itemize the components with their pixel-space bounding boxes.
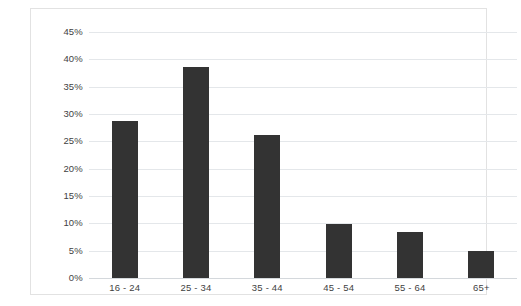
gridline xyxy=(89,32,517,33)
gridline xyxy=(89,87,517,88)
bar xyxy=(183,67,209,278)
gridline xyxy=(89,169,517,170)
x-axis-tick-label: 45 - 54 xyxy=(299,281,379,295)
bar xyxy=(326,224,352,278)
y-axis-tick-label: 45% xyxy=(39,27,83,37)
y-axis-tick-label: 25% xyxy=(39,137,83,147)
gridline xyxy=(89,278,517,279)
y-axis-tick-label: 5% xyxy=(39,246,83,256)
x-axis-tick-label: 16 - 24 xyxy=(85,281,165,295)
y-axis-tick-label: 0% xyxy=(39,273,83,283)
x-axis-tick-label: 65+ xyxy=(441,281,521,295)
x-axis-tick-label: 25 - 34 xyxy=(156,281,236,295)
bar xyxy=(254,135,280,278)
gridline xyxy=(89,59,517,60)
x-axis-tick-label: 35 - 44 xyxy=(227,281,307,295)
gridline xyxy=(89,141,517,142)
y-axis: 0%5%10%15%20%25%30%35%40%45% xyxy=(39,32,83,278)
y-axis-tick-label: 20% xyxy=(39,164,83,174)
plot-area xyxy=(89,32,517,278)
gridline xyxy=(89,196,517,197)
gridline xyxy=(89,251,517,252)
gridline xyxy=(89,223,517,224)
bar xyxy=(468,251,494,278)
y-axis-tick-label: 10% xyxy=(39,219,83,229)
x-axis-tick-label: 55 - 64 xyxy=(370,281,450,295)
y-axis-tick-label: 40% xyxy=(39,55,83,65)
y-axis-tick-label: 30% xyxy=(39,109,83,119)
bar xyxy=(397,232,423,278)
x-axis: 16 - 2425 - 3435 - 4445 - 5455 - 6465+ xyxy=(89,281,517,299)
bar xyxy=(112,121,138,278)
gridline xyxy=(89,114,517,115)
chart-frame: 0%5%10%15%20%25%30%35%40%45% 16 - 2425 -… xyxy=(30,8,487,295)
y-axis-tick-label: 15% xyxy=(39,191,83,201)
y-axis-tick-label: 35% xyxy=(39,82,83,92)
